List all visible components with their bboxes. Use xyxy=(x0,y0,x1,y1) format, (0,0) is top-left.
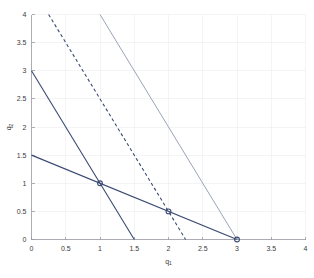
x-tick-label: 1 xyxy=(98,245,102,252)
x-tick-label: 0 xyxy=(30,245,34,252)
y-tick-label: 0.5 xyxy=(17,208,27,215)
y-tick-label: 3 xyxy=(23,67,27,74)
y-tick-label: 2 xyxy=(23,124,27,131)
x-tick-label: 2 xyxy=(167,245,171,252)
plot-background xyxy=(0,0,314,278)
x-tick-label: 4 xyxy=(304,245,308,252)
y-tick-label: 1 xyxy=(23,180,27,187)
figure-container: 00.511.522.533.54 00.511.522.533.54 q1q2 xyxy=(0,0,314,278)
y-tick-label: 4 xyxy=(23,11,27,18)
y-tick-label: 0 xyxy=(23,236,27,243)
x-tick-label: 2.5 xyxy=(198,245,208,252)
plot-area: 00.511.522.533.54 00.511.522.533.54 q1q2 xyxy=(0,0,314,278)
y-tick-label: 2.5 xyxy=(17,95,27,102)
y-tick-label: 1.5 xyxy=(17,152,27,159)
x-tick-label: 1.5 xyxy=(129,245,139,252)
x-tick-label: 3.5 xyxy=(266,245,276,252)
x-tick-label: 3 xyxy=(235,245,239,252)
y-tick-label: 3.5 xyxy=(17,39,27,46)
x-tick-label: 0.5 xyxy=(61,245,71,252)
